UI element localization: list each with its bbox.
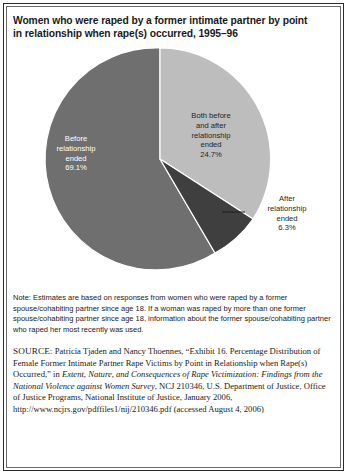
figure-note: Note: Estimates are based on responses f… [13,293,334,335]
figure-source: SOURCE: Patricia Tjaden and Nancy Thoenn… [13,346,334,416]
figure-title: Women who were raped by a former intimat… [13,14,313,40]
source-label: SOURCE: [13,346,53,356]
pie-chart: Before relationship ended 69.1% Both bef… [13,46,334,291]
pie-label-after-relationship-ended: After relationship ended 6.3% [249,194,325,232]
pie-chart-canvas: Before relationship ended 69.1% Both bef… [13,46,334,291]
pie-label-both-before-and-after: Both before and after relationship ended… [173,111,249,159]
pie-label-before-relationship-ended: Before relationship ended 69.1% [35,134,117,172]
figure-panel: Women who were raped by a former intimat… [0,0,347,474]
figure-content: Women who were raped by a former intimat… [13,12,334,462]
